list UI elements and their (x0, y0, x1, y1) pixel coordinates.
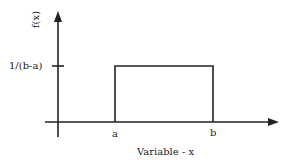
y-axis-arrow-icon (54, 11, 62, 22)
x-axis-label: Variable - x (137, 146, 194, 157)
y-axis-label: f(x) (30, 11, 41, 28)
x-tick-label-a: a (112, 128, 118, 139)
uniform-distribution-plot (0, 0, 290, 167)
y-tick-label: 1/(b-a) (9, 60, 42, 71)
x-axis-arrow-icon (268, 118, 279, 126)
x-tick-label-b: b (210, 127, 216, 138)
pdf-rectangle (115, 66, 213, 122)
